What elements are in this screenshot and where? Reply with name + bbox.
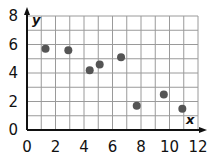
grid-lines xyxy=(27,16,198,130)
y-tick-label: 6 xyxy=(8,36,18,54)
x-axis-arrow-icon xyxy=(199,127,207,133)
data-point xyxy=(42,45,50,53)
data-point xyxy=(160,90,168,98)
x-tick-label: 10 xyxy=(160,138,179,156)
tick-labels: 02468101202468 xyxy=(8,7,207,156)
data-points xyxy=(42,45,187,113)
x-tick-label: 6 xyxy=(108,138,118,156)
x-tick-label: 0 xyxy=(22,138,32,156)
y-tick-label: 4 xyxy=(8,64,18,82)
data-point xyxy=(117,53,125,61)
x-tick-label: 12 xyxy=(188,138,207,156)
data-point xyxy=(133,102,141,110)
y-axis-label: y xyxy=(32,12,41,27)
axes xyxy=(24,7,207,133)
data-point xyxy=(96,60,104,68)
y-tick-label: 8 xyxy=(8,7,18,25)
y-axis-arrow-icon xyxy=(24,7,30,15)
y-tick-label: 2 xyxy=(8,93,18,111)
data-point xyxy=(64,46,72,54)
x-tick-label: 8 xyxy=(136,138,146,156)
data-point xyxy=(86,66,94,74)
x-axis-label: x xyxy=(185,112,195,127)
x-tick-label: 2 xyxy=(51,138,61,156)
y-tick-label: 0 xyxy=(8,121,18,139)
x-tick-label: 4 xyxy=(79,138,89,156)
scatter-chart: 02468101202468 y x xyxy=(0,0,212,159)
